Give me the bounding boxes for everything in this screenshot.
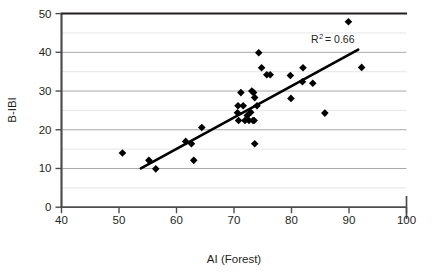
data-point	[250, 117, 258, 125]
x-axis-tick-label: 70	[228, 214, 241, 226]
gridlines-group	[62, 33, 407, 188]
data-point	[309, 80, 317, 88]
y-axis-tick-label: 10	[39, 162, 52, 174]
y-axis-tick-label: 0	[45, 201, 51, 213]
data-point	[152, 165, 160, 173]
x-axis-tick-label: 80	[285, 214, 298, 226]
scatter-chart: 405060708090100 01020304050 AI (Forest) …	[0, 0, 437, 276]
y-axis-title: B-IBI	[6, 97, 18, 123]
data-point	[239, 102, 247, 110]
r-squared-exponent: 2	[319, 32, 323, 41]
r-squared-annotation: R 2 = 0.66	[311, 32, 355, 46]
r-squared-letter: R	[311, 33, 319, 45]
x-axis-title: AI (Forest)	[207, 253, 261, 265]
data-point	[345, 18, 353, 26]
y-axis-tick-label: 50	[39, 8, 52, 20]
data-point	[119, 149, 127, 157]
data-point	[287, 95, 295, 103]
x-axis-tick-label: 50	[113, 214, 126, 226]
x-axis-tick-labels-group: 405060708090100	[55, 214, 416, 226]
trendline-group	[141, 50, 358, 169]
data-point	[299, 64, 307, 72]
data-point	[251, 94, 259, 102]
data-point	[237, 89, 245, 97]
data-point	[258, 64, 266, 72]
data-point	[255, 49, 263, 57]
regression-trendline	[141, 50, 358, 169]
chart-canvas: 405060708090100 01020304050 AI (Forest) …	[0, 0, 437, 276]
r-squared-value: = 0.66	[325, 33, 355, 45]
y-axis-tick-label: 20	[39, 124, 52, 136]
x-axis-tick-label: 40	[55, 214, 68, 226]
data-point	[190, 157, 198, 165]
data-point	[251, 140, 259, 148]
x-axis-tick-label: 100	[397, 214, 416, 226]
x-axis-tick-label: 90	[343, 214, 356, 226]
y-axis-tick-labels-group: 01020304050	[39, 8, 52, 214]
y-axis-tick-label: 40	[39, 46, 52, 58]
data-point	[358, 64, 366, 72]
x-axis-tick-label: 60	[170, 214, 183, 226]
y-axis-tick-label: 30	[39, 85, 52, 97]
data-point	[287, 72, 295, 80]
x-axis-ticks-group	[62, 207, 407, 213]
